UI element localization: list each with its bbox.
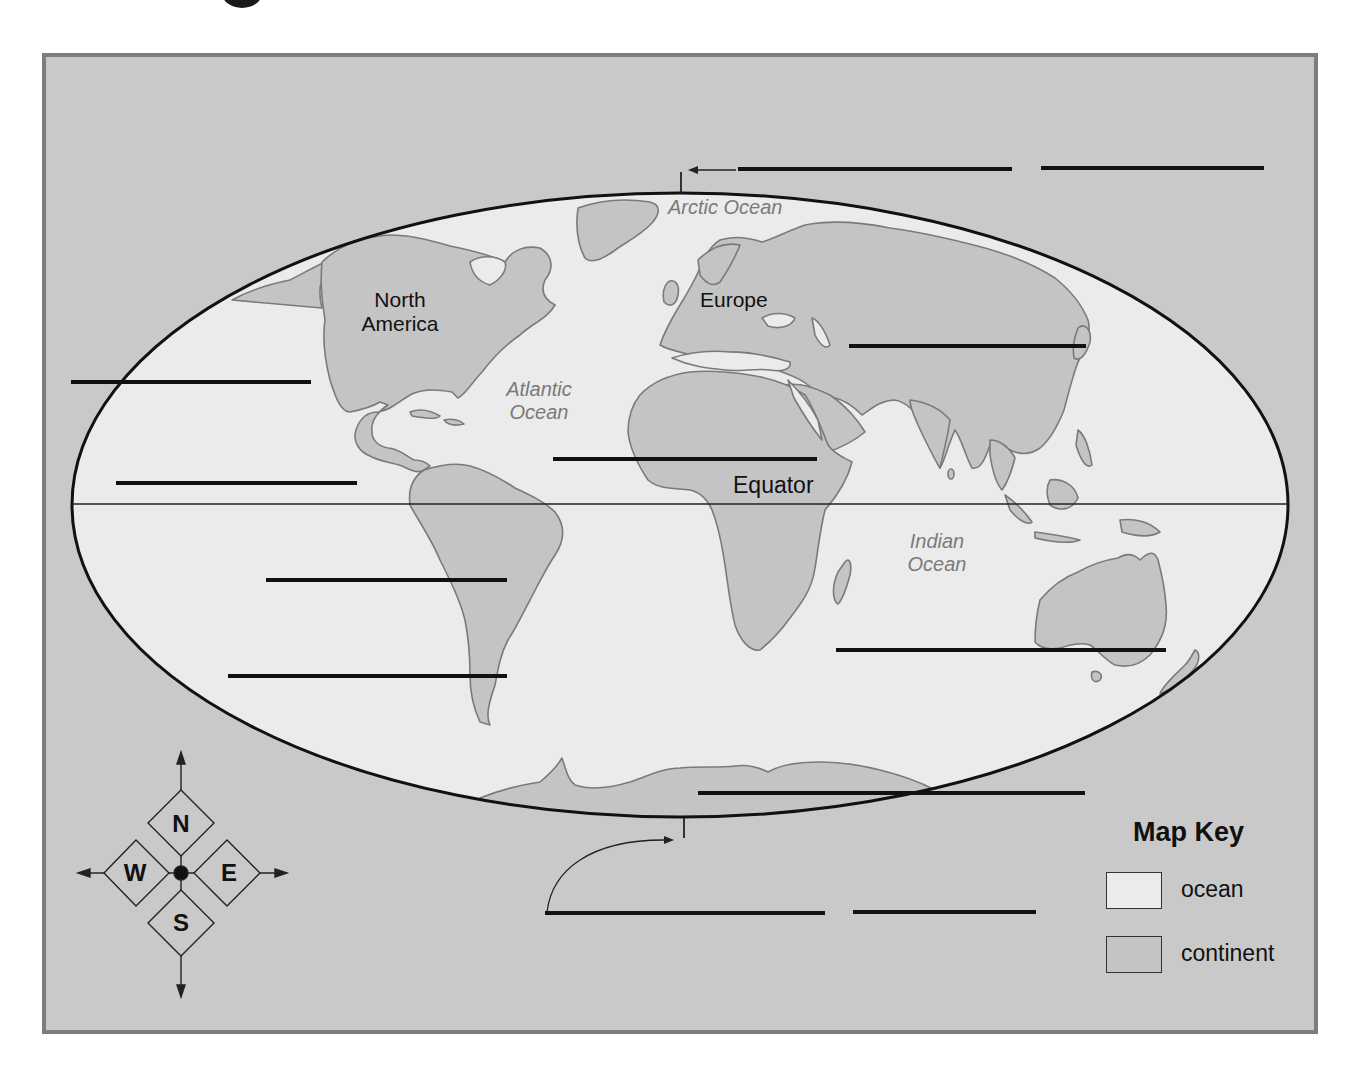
label-arctic-ocean-text: Arctic Ocean xyxy=(668,196,782,218)
south-pole-arrowhead xyxy=(664,836,674,844)
label-indian-ocean: Indian Ocean xyxy=(895,530,979,576)
label-europe: Europe xyxy=(700,288,768,312)
map-key-continent-label: continent xyxy=(1181,940,1274,967)
compass-west-label: W xyxy=(120,859,150,887)
great-britain-island xyxy=(663,281,678,305)
compass-east-label: E xyxy=(214,859,244,887)
label-equator: Equator xyxy=(733,472,814,498)
label-north-america: North America xyxy=(352,288,448,336)
map-key-title: Map Key xyxy=(1133,817,1244,848)
label-atlantic-line1: Atlantic xyxy=(494,378,584,401)
label-equator-text: Equator xyxy=(733,472,814,498)
label-arctic-ocean: Arctic Ocean xyxy=(668,196,782,219)
map-key-ocean-swatch xyxy=(1106,872,1162,909)
label-europe-text: Europe xyxy=(700,288,768,311)
world-map xyxy=(0,0,1352,1071)
compass-north-arrowhead xyxy=(177,752,185,764)
label-atlantic-line2: Ocean xyxy=(494,401,584,424)
compass-center-dot xyxy=(174,866,188,880)
map-key-continent-swatch xyxy=(1106,936,1162,973)
label-north-america-line1: North xyxy=(352,288,448,312)
label-indian-line1: Indian xyxy=(895,530,979,553)
sri-lanka-island xyxy=(948,469,954,479)
map-key-ocean-label: ocean xyxy=(1181,876,1244,903)
compass-south-label: S xyxy=(166,909,196,937)
tasmania-island xyxy=(1092,671,1102,681)
compass-north-label: N xyxy=(166,810,196,838)
label-atlantic-ocean: Atlantic Ocean xyxy=(494,378,584,424)
compass-east-arrowhead xyxy=(275,869,287,877)
south-pole-arrow xyxy=(547,840,664,912)
north-pole-arrowhead xyxy=(688,166,698,174)
compass-west-arrowhead xyxy=(78,869,90,877)
ocean-area xyxy=(72,193,1288,817)
compass-rose xyxy=(78,752,287,997)
label-indian-line2: Ocean xyxy=(895,553,979,576)
compass-south-arrowhead xyxy=(177,985,185,997)
label-north-america-line2: America xyxy=(352,312,448,336)
